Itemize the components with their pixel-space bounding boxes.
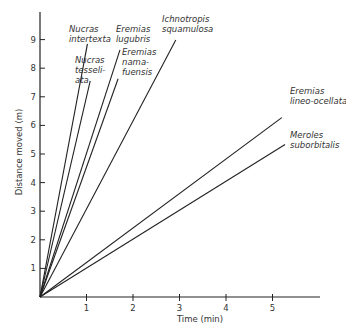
- y-tick-label: 2: [31, 235, 36, 245]
- series-line: [40, 145, 285, 297]
- y-tick-label: 7: [31, 92, 36, 102]
- series-line: [40, 40, 176, 297]
- x-tick-label: 2: [130, 303, 135, 313]
- x-tick-label: 1: [84, 303, 89, 313]
- y-axis-label: Distance moved (m): [14, 109, 24, 196]
- y-tick-label: 9: [31, 35, 36, 45]
- x-tick-label: 4: [223, 303, 228, 313]
- species-label: Ichnotropissquamulosa: [162, 14, 213, 34]
- chart: 12345123456789 NucrasintertextaNucrastes…: [0, 0, 346, 333]
- series-line: [40, 81, 90, 297]
- species-label: Merolessuborbitalis: [290, 130, 340, 150]
- y-tick-label: 5: [31, 149, 36, 159]
- series-line: [40, 118, 282, 297]
- series-line: [40, 79, 118, 297]
- species-label: Nucrasintertexta: [69, 24, 111, 44]
- species-label: Eremiaslineo-ocellata: [290, 86, 346, 106]
- y-tick-label: 8: [31, 63, 36, 73]
- series-line: [40, 50, 120, 297]
- x-tick-label: 5: [270, 303, 275, 313]
- y-tick-label: 6: [31, 120, 36, 130]
- species-label: Nucrastesseli-ata: [75, 55, 105, 85]
- species-label: Eremiaslugubris: [116, 24, 151, 44]
- axes: 12345123456789: [31, 12, 320, 313]
- x-tick-label: 3: [177, 303, 182, 313]
- species-labels: NucrasintertextaNucrastesseli-ataEremias…: [69, 14, 346, 150]
- species-label: Eremiasnama-fuensis: [122, 47, 157, 77]
- x-axis-label: Time (min): [176, 314, 223, 324]
- y-tick-label: 3: [31, 206, 36, 216]
- y-tick-label: 1: [31, 263, 36, 273]
- y-tick-label: 4: [31, 178, 36, 188]
